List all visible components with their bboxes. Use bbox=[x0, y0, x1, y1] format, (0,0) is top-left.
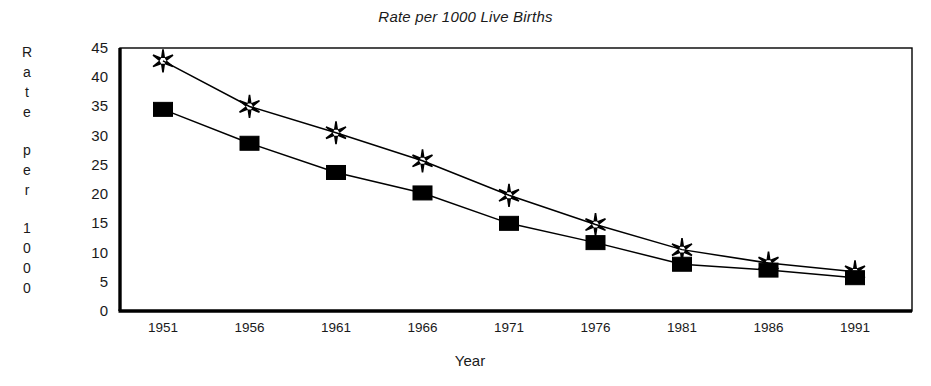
series-star-series bbox=[153, 49, 865, 283]
marker-square bbox=[154, 102, 173, 116]
marker-square bbox=[846, 271, 865, 285]
data-series-group bbox=[153, 49, 865, 284]
plot-area bbox=[0, 0, 931, 386]
series-line bbox=[163, 61, 855, 272]
marker-square bbox=[413, 186, 432, 200]
marker-square bbox=[240, 136, 259, 150]
series-line bbox=[163, 109, 855, 277]
chart-figure: Rate per 1000 Live Births R a t e p e r … bbox=[0, 0, 931, 386]
marker-square bbox=[327, 165, 346, 179]
series-square-series bbox=[154, 102, 865, 284]
marker-square bbox=[586, 236, 605, 250]
marker-square bbox=[500, 216, 519, 230]
marker-square bbox=[759, 263, 778, 277]
marker-square bbox=[673, 257, 692, 271]
